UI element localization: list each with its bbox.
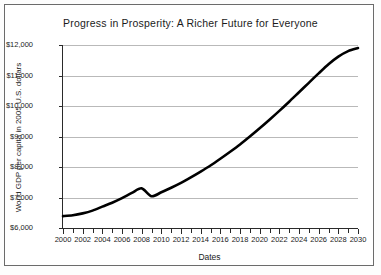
x-tick-mark <box>132 229 133 233</box>
x-tick-mark <box>220 229 221 234</box>
chart-figure: Progress in Prosperity: A Richer Future … <box>0 0 381 275</box>
x-tick-mark <box>63 229 64 234</box>
x-axis-label: Dates <box>62 252 357 262</box>
x-tick-mark <box>299 229 300 234</box>
y-tick-label: $7,000 <box>0 193 33 202</box>
x-tick-mark <box>152 229 153 233</box>
x-tick-mark <box>230 229 231 233</box>
x-tick-mark <box>171 229 172 233</box>
x-tick-mark <box>309 229 310 233</box>
x-tick-mark <box>142 229 143 234</box>
x-tick-mark <box>329 229 330 233</box>
x-tick-mark <box>73 229 74 233</box>
chart-title: Progress in Prosperity: A Richer Future … <box>0 17 381 29</box>
line-series-world-gdp <box>63 48 358 216</box>
x-tick-mark <box>181 229 182 234</box>
x-tick-mark <box>260 229 261 234</box>
plot-area: $12,000$11,000$10,000$9,000$8,000$7,000$… <box>62 45 358 229</box>
x-tick-mark <box>112 229 113 233</box>
y-tick-label: $9,000 <box>0 132 33 141</box>
x-tick-mark <box>270 229 271 233</box>
x-tick-mark <box>348 229 349 233</box>
x-tick-mark <box>338 229 339 234</box>
x-tick-mark <box>319 229 320 234</box>
x-tick-mark <box>83 229 84 234</box>
x-tick-mark <box>289 229 290 233</box>
x-tick-mark <box>201 229 202 234</box>
x-tick-mark <box>191 229 192 233</box>
y-tick-label: $10,000 <box>0 101 33 110</box>
y-tick-label: $8,000 <box>0 162 33 171</box>
x-tick-mark <box>240 229 241 234</box>
data-series-layer <box>63 45 358 228</box>
x-tick-mark <box>93 229 94 233</box>
x-tick-mark <box>211 229 212 233</box>
x-tick-mark <box>161 229 162 234</box>
x-tick-mark <box>250 229 251 233</box>
y-tick-label: $11,000 <box>0 71 33 80</box>
x-tick-label: 2030 <box>340 235 376 244</box>
x-tick-mark <box>279 229 280 234</box>
x-tick-mark <box>102 229 103 234</box>
x-tick-mark <box>358 229 359 234</box>
y-tick-label: $6,000 <box>0 223 33 232</box>
y-tick-label: $12,000 <box>0 40 33 49</box>
x-tick-mark <box>122 229 123 234</box>
